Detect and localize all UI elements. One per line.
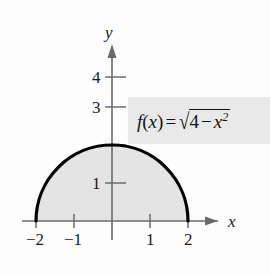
y-axis-arrow-icon: [108, 44, 117, 58]
radical-sign-icon: √: [179, 110, 189, 132]
minus-sign: −: [199, 111, 214, 132]
y-tick-label-1: 1: [92, 175, 101, 192]
x-tick-label-neg1: −1: [64, 231, 82, 248]
equals-sign: =: [163, 111, 178, 132]
x-tick-label-1: 1: [146, 231, 155, 248]
y-axis-label: y: [105, 24, 113, 41]
x-tick-label-2: 2: [184, 231, 193, 248]
y-tick-label-4: 4: [92, 69, 101, 86]
radicand-exponent: 2: [222, 110, 228, 124]
radicand-constant: 4: [190, 111, 200, 132]
x-axis-arrow-icon: [205, 217, 218, 226]
x-axis-label: x: [228, 213, 236, 230]
y-tick-label-3: 3: [92, 99, 101, 116]
semicircle-figure: −2 −1 1 2 1 3 4 x y f(x)=√4−x2: [0, 0, 270, 275]
radicand: 4−x2: [189, 109, 231, 131]
x-tick-label-neg2: −2: [26, 231, 44, 248]
function-arg: x: [149, 111, 157, 132]
radical-expression: √4−x2: [178, 109, 230, 131]
function-label: f(x)=√4−x2: [137, 109, 230, 131]
radicand-variable: x: [214, 111, 222, 132]
